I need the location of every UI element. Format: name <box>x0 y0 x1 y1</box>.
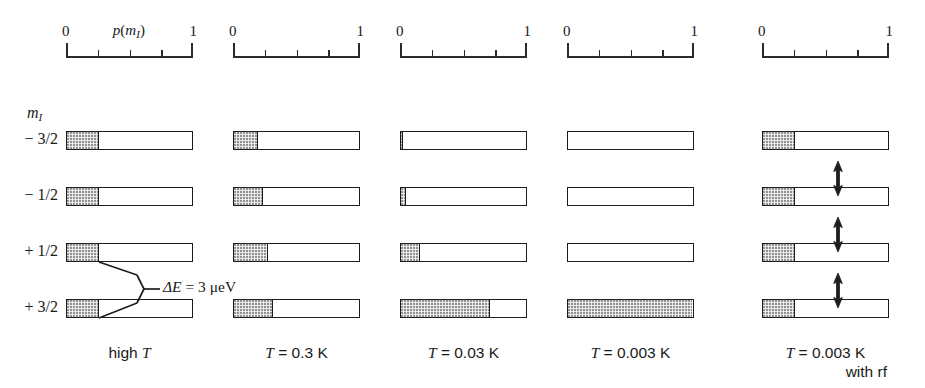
bar-fill-col2-row3 <box>234 244 268 261</box>
axis-tick-0 <box>233 43 235 58</box>
bar-col1-row1 <box>66 131 193 150</box>
bar-fill-col2-row4 <box>234 300 273 317</box>
axis-max-label-2: 1 <box>357 24 365 39</box>
axis-title-1: p(mI) <box>113 22 145 40</box>
bar-col1-row4 <box>66 299 193 318</box>
bar-col5-row2 <box>762 187 889 206</box>
bar-fill-col1-row3 <box>67 244 99 261</box>
axis-tick-25 <box>98 50 100 58</box>
energy-level-population-figure: 0 p(mI) 1 0 1 0 1 0 1 <box>0 0 925 388</box>
axis-title-p: p <box>113 22 121 38</box>
delta-e-unit: μeV <box>210 278 236 295</box>
bar-fill-col1-row1 <box>67 132 99 149</box>
column-caption-4-value: = 0.003 K <box>604 344 671 361</box>
bar-col3-row1 <box>400 131 527 150</box>
axis-tick-100 <box>692 43 694 58</box>
axis-tick-50 <box>297 50 299 58</box>
column-caption-4: T = 0.003 K <box>567 344 694 362</box>
bar-fill-col2-row1 <box>234 132 258 149</box>
axis-column-3: 0 1 <box>400 22 527 58</box>
bar-col4-row4 <box>567 299 694 318</box>
axis-max-label-3: 1 <box>524 24 532 39</box>
bar-col3-row3 <box>400 243 527 262</box>
bar-col1-row2 <box>66 187 193 206</box>
column-caption-1-prefix: high <box>108 344 137 361</box>
row-axis-header-var: m <box>27 104 39 121</box>
delta-e-symbol: ΔE <box>163 278 182 295</box>
column-caption-1-var: T <box>142 344 151 361</box>
axis-tick-75 <box>857 50 859 58</box>
column-caption-5-subline: with rf <box>762 363 889 381</box>
bar-fill-col1-row2 <box>67 188 99 205</box>
axis-column-5: 0 1 <box>762 22 889 58</box>
axis-min-label-2: 0 <box>229 24 237 39</box>
axis-tick-25 <box>794 50 796 58</box>
bar-fill-col3-row3 <box>401 244 420 261</box>
axis-tick-75 <box>495 50 497 58</box>
bar-col5-row4 <box>762 299 889 318</box>
column-caption-3-value: = 0.03 K <box>441 344 499 361</box>
column-caption-2-value: = 0.3 K <box>278 344 328 361</box>
axis-tick-25 <box>265 50 267 58</box>
axis-min-label-3: 0 <box>396 24 404 39</box>
bar-col2-row4 <box>233 299 360 318</box>
column-caption-4-var: T <box>591 344 600 361</box>
column-caption-5-value: = 0.003 K <box>799 344 866 361</box>
row-label-plus-1-2: + 1/2 <box>0 242 58 260</box>
column-caption-1: high T <box>66 344 193 362</box>
bar-fill-col4-row4 <box>568 300 692 317</box>
row-axis-header-sub: I <box>39 111 43 123</box>
column-caption-2: T = 0.3 K <box>233 344 360 362</box>
bar-fill-col1-row4 <box>67 300 99 317</box>
axis-tick-0 <box>400 43 402 58</box>
bar-col4-row3 <box>567 243 694 262</box>
bar-fill-col5-row4 <box>763 300 795 317</box>
bar-fill-col5-row1 <box>763 132 795 149</box>
bar-fill-col3-row4 <box>401 300 490 317</box>
axis-min-label-1: 0 <box>62 24 70 39</box>
bar-fill-col3-row1 <box>401 132 403 149</box>
axis-column-2: 0 1 <box>233 22 360 58</box>
axis-tick-0 <box>66 43 68 58</box>
axis-tick-100 <box>358 43 360 58</box>
axis-tick-50 <box>631 50 633 58</box>
column-caption-3-var: T <box>428 344 437 361</box>
axis-column-1: 0 p(mI) 1 <box>66 22 193 58</box>
axis-tick-100 <box>191 43 193 58</box>
column-caption-2-var: T <box>265 344 274 361</box>
axis-max-label-5: 1 <box>886 24 894 39</box>
axis-title-m: m <box>125 22 136 38</box>
axis-title-close-paren: ) <box>140 22 145 38</box>
axis-max-label-4: 1 <box>691 24 699 39</box>
bar-fill-col5-row2 <box>763 188 795 205</box>
delta-e-annotation: ΔE = 3 μeV <box>163 278 236 296</box>
axis-tick-75 <box>662 50 664 58</box>
row-label-minus-1-2: − 1/2 <box>0 186 58 204</box>
axis-tick-25 <box>599 50 601 58</box>
bar-fill-col5-row3 <box>763 244 795 261</box>
delta-e-value: 3 <box>198 278 206 295</box>
axis-tick-50 <box>464 50 466 58</box>
axis-tick-50 <box>826 50 828 58</box>
row-axis-header: mI <box>27 104 42 123</box>
axis-tick-75 <box>161 50 163 58</box>
bar-col2-row3 <box>233 243 360 262</box>
axis-tick-25 <box>432 50 434 58</box>
bar-fill-col2-row2 <box>234 188 263 205</box>
column-caption-5: T = 0.003 K with rf <box>762 344 889 381</box>
row-label-plus-3-2: + 3/2 <box>0 298 58 316</box>
bar-col3-row4 <box>400 299 527 318</box>
bar-col4-row1 <box>567 131 694 150</box>
bar-col2-row1 <box>233 131 360 150</box>
row-label-minus-3-2: − 3/2 <box>0 130 58 148</box>
axis-min-label-4: 0 <box>563 24 571 39</box>
bar-col4-row2 <box>567 187 694 206</box>
axis-tick-75 <box>328 50 330 58</box>
axis-tick-50 <box>130 50 132 58</box>
delta-e-equals: = <box>185 278 194 295</box>
axis-tick-0 <box>567 43 569 58</box>
bar-col5-row1 <box>762 131 889 150</box>
axis-tick-0 <box>762 43 764 58</box>
axis-min-label-5: 0 <box>758 24 766 39</box>
bar-fill-col3-row2 <box>401 188 406 205</box>
